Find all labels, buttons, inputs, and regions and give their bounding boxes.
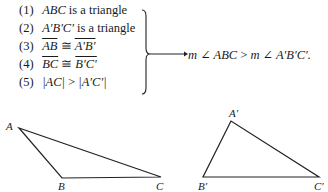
vertex-label-b: B: [58, 180, 65, 192]
conclusion-right: m ∠ A′B′C′.: [250, 48, 310, 62]
conclusion-left: m ∠ ABC: [188, 48, 237, 62]
triangle-a-prime-b-prime-c-prime: [203, 121, 319, 177]
brace-icon: [142, 10, 150, 94]
diagram-canvas: [0, 0, 328, 192]
vertex-label-c-prime: C′: [314, 180, 324, 192]
vertex-label-c: C: [156, 180, 163, 192]
vertex-label-a-prime: A′: [229, 107, 238, 119]
triangle-abc: [19, 128, 161, 178]
conclusion: m ∠ ABC > m ∠ A′B′C′.: [188, 47, 311, 63]
vertex-label-a: A: [6, 120, 13, 132]
conclusion-relation: >: [237, 48, 250, 62]
vertex-label-b-prime: B′: [198, 180, 207, 192]
